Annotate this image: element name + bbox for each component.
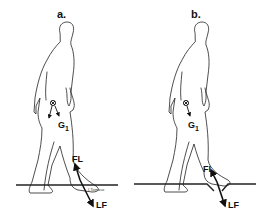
gravity-arrow-b — [187, 106, 190, 116]
foot-force-label-a: FL — [72, 154, 83, 164]
gait-diagram: a. G1 I.Tomaso FL LF b. — [0, 0, 269, 220]
panel-b-label: b. — [191, 8, 201, 20]
ground-reaction-label-a: LF — [96, 200, 107, 210]
hip-marker-icon-b — [183, 100, 188, 105]
gravity-arrow-a2 — [55, 106, 59, 116]
ground-reaction-arrow-a — [80, 180, 93, 206]
panel-a-label: a. — [57, 8, 66, 20]
ground-reaction-label-b: LF — [228, 200, 239, 210]
ground-line-b — [134, 184, 256, 191]
com-label-b: G1 — [188, 120, 199, 132]
panel-a: a. G1 I.Tomaso FL LF — [16, 8, 118, 210]
com-label-a: G1 — [58, 120, 69, 132]
panel-b: b. G1 FL LF — [134, 8, 256, 210]
gravity-arrow-a1 — [49, 106, 52, 118]
walker-figure-b — [164, 22, 230, 192]
hip-marker-icon-a — [50, 100, 55, 105]
foot-force-label-b: FL — [203, 164, 214, 174]
signature: I.Tomaso — [88, 187, 105, 192]
walker-figure-a — [29, 22, 98, 193]
